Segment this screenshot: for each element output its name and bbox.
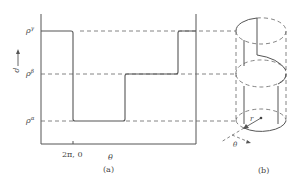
theta-label-b: θ — [233, 141, 238, 149]
x-axis-label: θ — [108, 153, 113, 162]
center-point — [260, 117, 263, 120]
panel-a-caption: (a) — [103, 165, 114, 174]
density-curve — [41, 31, 196, 121]
rho-gamma-label: ργ — [25, 25, 35, 35]
top-ellipse-solid — [236, 18, 257, 31]
radius-label: r — [250, 115, 254, 123]
diagram-canvas: ργ ρβ ρα ρ 2π, 0 θ (a) r θ ( — [0, 0, 304, 183]
panel-b-caption: (b) — [258, 166, 269, 175]
panel-b-cylinder — [221, 18, 286, 144]
theta-arrow-head — [246, 140, 251, 144]
mid-ellipse-dashed — [236, 60, 286, 87]
y-arrow-head — [16, 49, 20, 54]
y-axis-label: ρ — [13, 67, 22, 73]
panel-a — [16, 14, 238, 144]
beta-gamma-boundary — [257, 55, 286, 70]
rho-beta-label: ρβ — [25, 68, 34, 78]
mid-ellipse-solid-front — [278, 74, 286, 84]
x-tick-label: 2π, 0 — [62, 150, 83, 159]
bottom-ellipse-dashed-front — [236, 121, 244, 128]
rho-alpha-label: ρα — [25, 115, 35, 125]
